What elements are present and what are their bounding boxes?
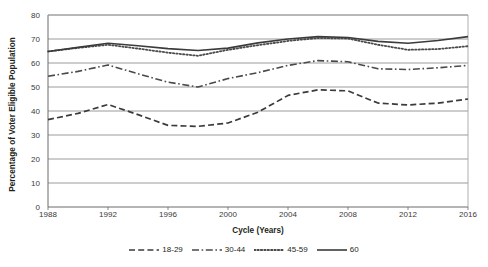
grid-lines (48, 15, 468, 183)
legend-item-30-44[interactable]: 30-44 (192, 245, 245, 254)
data-series-layer (48, 37, 468, 127)
legend-key-solid-icon (317, 246, 347, 254)
series-line-45-59 (48, 38, 468, 56)
legend-item-45-59[interactable]: 45-59 (254, 245, 307, 254)
legend-key-dotted-icon (254, 246, 284, 254)
legend-key-dashdot-icon (192, 246, 222, 254)
legend-key-dashed-icon (129, 246, 159, 254)
series-line-18-29 (48, 90, 468, 126)
chart-legend: 18-2930-4445-5960 (0, 245, 488, 254)
series-line-30-44 (48, 61, 468, 87)
legend-label: 18-29 (162, 245, 182, 254)
legend-label: 60 (350, 245, 359, 254)
line-chart: Percentage of Voter Eligible Population … (0, 0, 488, 267)
legend-item-60[interactable]: 60 (317, 245, 359, 254)
legend-label: 30-44 (225, 245, 245, 254)
legend-item-18-29[interactable]: 18-29 (129, 245, 182, 254)
x-axis-title: Cycle (Years) (48, 226, 468, 235)
legend-label: 45-59 (287, 245, 307, 254)
